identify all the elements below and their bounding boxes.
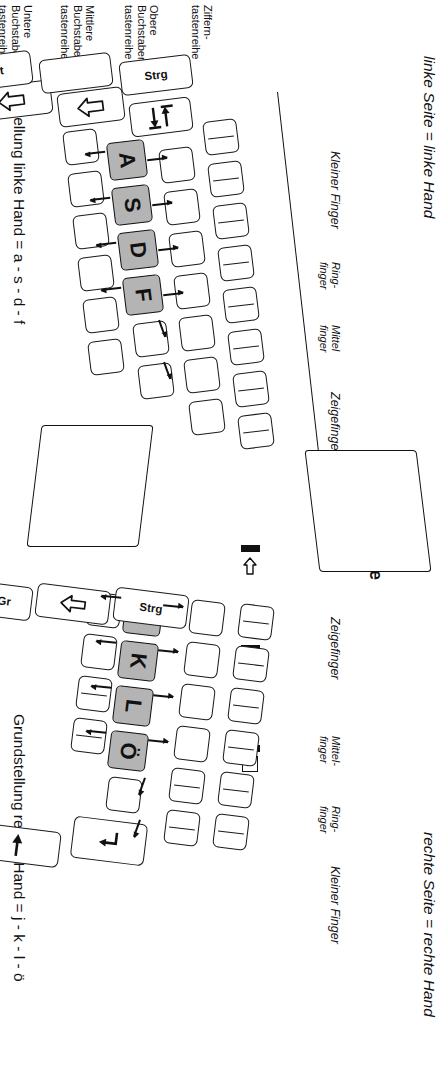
key-h[interactable]	[137, 362, 175, 400]
key-uuml[interactable]	[173, 725, 211, 763]
key-o[interactable]	[183, 641, 221, 679]
key-z[interactable]	[183, 356, 221, 394]
key-equal[interactable]	[222, 729, 260, 767]
key-num-7[interactable]	[232, 370, 270, 408]
key-g[interactable]	[132, 320, 170, 358]
key-label: Ö	[108, 731, 148, 771]
key-label: Strg	[131, 570, 172, 645]
key-split-line	[169, 826, 195, 830]
key-split-line	[243, 620, 269, 624]
key-i[interactable]	[188, 599, 226, 637]
key-dash[interactable]	[70, 717, 108, 755]
enter-return-icon	[71, 817, 147, 865]
key-enter[interactable]	[70, 816, 149, 867]
key-strg-left[interactable]: Strg	[118, 54, 194, 97]
key-num-0[interactable]	[232, 645, 270, 683]
key-split-line	[76, 734, 102, 738]
home-key-l[interactable]: L	[112, 685, 154, 727]
key-num-3[interactable]	[212, 202, 250, 240]
key-label: S	[112, 185, 152, 225]
key-num-2[interactable]	[207, 160, 245, 198]
key-split-line	[174, 784, 200, 788]
key-num-9[interactable]	[237, 603, 275, 641]
key-num-1[interactable]	[202, 118, 240, 156]
key-split-line	[218, 830, 244, 834]
key-split-line	[223, 261, 249, 265]
key-num-5[interactable]	[222, 286, 260, 324]
key-label: Alt Gr	[0, 562, 15, 637]
key-shift-right[interactable]	[0, 822, 62, 868]
key-period[interactable]	[75, 675, 113, 713]
key-y[interactable]	[62, 128, 100, 166]
key-split-line	[218, 219, 244, 223]
key-q[interactable]	[158, 146, 196, 184]
key-num-4[interactable]	[217, 244, 255, 282]
key-acute[interactable]	[217, 771, 255, 809]
key-label: K	[118, 641, 158, 681]
key-hash[interactable]	[163, 809, 201, 847]
key-minus[interactable]	[227, 687, 265, 725]
shift-up-arrow-icon	[0, 823, 61, 867]
home-key-k[interactable]: K	[117, 640, 159, 682]
home-key-a[interactable]: A	[106, 139, 148, 181]
key-label: Alt	[0, 34, 16, 107]
key-label: A	[107, 140, 147, 180]
key-split-line	[243, 429, 269, 433]
key-label: L	[113, 686, 153, 726]
key-num-6[interactable]	[227, 328, 265, 366]
key-v[interactable]	[77, 254, 115, 292]
key-t[interactable]	[178, 314, 216, 352]
key-p[interactable]	[178, 683, 216, 721]
home-key-oumlaut[interactable]: Ö	[107, 730, 149, 772]
key-split-line	[238, 387, 264, 391]
spacebar-right[interactable]	[27, 425, 154, 547]
key-split-line	[233, 704, 259, 708]
key-label: F	[123, 275, 163, 315]
key-u[interactable]	[188, 398, 226, 436]
key-split-line	[228, 303, 254, 307]
key-split-line	[213, 177, 239, 181]
key-split-line	[238, 662, 264, 666]
key-split-line	[81, 692, 107, 696]
key-label: D	[118, 230, 158, 270]
key-split-line	[233, 345, 259, 349]
key-caps-lock[interactable]	[56, 86, 126, 128]
keyboard-right-half: J K L Ö	[0, 545, 446, 1088]
key-label: Strg	[136, 38, 176, 111]
key-num-8[interactable]	[237, 412, 275, 450]
win-arrow-icon	[35, 584, 110, 625]
key-alt-gr[interactable]: Alt Gr	[0, 579, 34, 622]
key-split-line	[223, 788, 249, 792]
home-key-f[interactable]: F	[122, 274, 164, 316]
key-split-line	[208, 135, 234, 139]
key-backspace[interactable]	[212, 813, 250, 851]
keyboard-diagram: Ziffern- tastenreihe Obere Buchstaben- t…	[0, 0, 446, 1088]
key-w[interactable]	[163, 188, 201, 226]
key-plus[interactable]	[168, 767, 206, 805]
key-n[interactable]	[87, 338, 125, 376]
home-key-d[interactable]: D	[117, 229, 159, 271]
key-win-right[interactable]	[34, 583, 112, 626]
caps-arrow-icon	[57, 87, 124, 127]
home-key-s[interactable]: S	[111, 184, 153, 226]
key-b[interactable]	[82, 296, 120, 334]
key-x[interactable]	[67, 170, 105, 208]
key-split-line	[228, 746, 254, 750]
